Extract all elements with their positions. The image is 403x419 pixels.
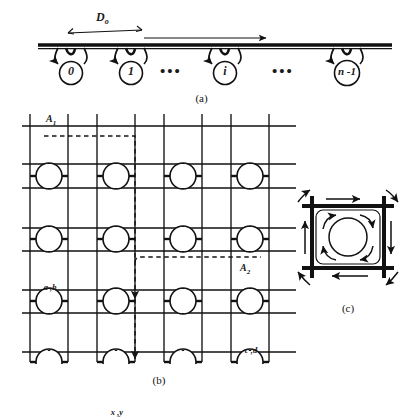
route-a2-label-group: A2 <box>240 262 250 276</box>
mesh-node-r1c1 <box>97 226 135 252</box>
route-a1-path <box>44 136 135 299</box>
route-a1-label: A <box>46 113 53 124</box>
bus-ellipsis-right: ••• <box>272 63 294 80</box>
mesh-node-r2c3 <box>231 288 269 314</box>
mesh-node-r3c1 <box>97 349 135 364</box>
bus-node-i-label: i <box>215 64 235 79</box>
mesh-node-r0c0-label: a ,b <box>37 282 63 292</box>
bus-node-0-label: 0 <box>61 64 81 79</box>
caption-panel-a: (a) <box>0 92 403 104</box>
mesh-node-r0c1 <box>97 163 135 189</box>
mesh-node-r3c2 <box>164 349 202 364</box>
bus-node-1-label: 1 <box>121 64 141 79</box>
panel-b-svg <box>18 112 300 364</box>
bus-node-n-minus-1-label: n -1 <box>333 65 361 77</box>
distance-label: D <box>96 10 105 24</box>
mesh-node-r0c2 <box>164 163 202 189</box>
route-a1-label-group: A1 <box>46 113 56 127</box>
panel-a-svg <box>0 0 403 105</box>
mesh-node-r0c3 <box>231 163 269 189</box>
mesh-node-r2c1 <box>97 288 135 314</box>
route-a1-subscript: 1 <box>53 119 57 127</box>
route-a2-subscript: 2 <box>247 268 251 276</box>
mesh-node-r3c0 <box>30 349 68 364</box>
mesh-node-r0c0 <box>30 163 68 189</box>
panel-c-svg <box>296 186 400 298</box>
bus-ellipsis-left: ••• <box>160 63 182 80</box>
panel-c-center-circle <box>329 218 367 256</box>
mesh-node-r2c2 <box>164 288 202 314</box>
panel-c-switch-node-detail <box>296 186 400 298</box>
corner-turn-arrow-top-right <box>386 190 398 202</box>
panel-a-linear-bus-array: Do 0 1 i n -1 ••• ••• <box>0 0 403 105</box>
corner-turn-arrow-bottom-left <box>298 272 310 285</box>
mesh-node-r2c1-label: x ,y <box>104 407 130 417</box>
distance-dimension-line <box>68 26 142 34</box>
mesh-node-r1c2 <box>164 226 202 252</box>
corner-turn-arrow-top-left <box>298 190 310 202</box>
bus-line <box>38 45 392 49</box>
distance-label-group: Do <box>96 10 109 26</box>
caption-panel-b: (b) <box>18 374 300 386</box>
distance-label-subscript: o <box>105 17 109 26</box>
panel-b-mesh-grid-network: a ,b c ,d x ,y x ,y A1 A2 <box>18 112 300 364</box>
corner-turn-arrow-bottom-right <box>386 272 398 285</box>
mesh-node-r1c3 <box>231 226 269 252</box>
route-a2-label: A <box>240 262 247 273</box>
mesh-node-r1c0 <box>30 226 68 252</box>
figure-root: Do 0 1 i n -1 ••• ••• (a) <box>0 0 403 419</box>
caption-panel-c: (c) <box>296 302 400 314</box>
mesh-node-r1c3-label: c ,d <box>238 345 264 355</box>
